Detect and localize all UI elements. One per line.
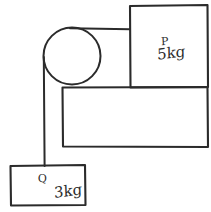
string-vertical-segment bbox=[44, 57, 45, 166]
pulley-circle bbox=[44, 28, 101, 85]
diagram-canvas: P 5kg Q 3kg bbox=[0, 0, 211, 212]
pulley-diagram-figure bbox=[0, 0, 211, 212]
block-p-mass-label: 5kg bbox=[157, 44, 185, 63]
block-q-mass-label: 3kg bbox=[54, 182, 83, 201]
block-q-name-label: Q bbox=[38, 173, 47, 184]
table-rectangle bbox=[63, 87, 209, 147]
string-horizontal-segment bbox=[70, 28, 130, 29]
